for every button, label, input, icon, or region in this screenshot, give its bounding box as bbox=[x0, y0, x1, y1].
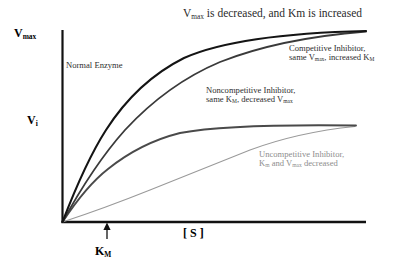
chart-title: Vmax is decreased, and Km is increased bbox=[183, 7, 362, 21]
enzyme-kinetics-figure: Vmax is decreased, and Km is increased V… bbox=[0, 0, 413, 272]
km-arrow-icon bbox=[103, 223, 110, 240]
curve-uncompetitive bbox=[63, 127, 356, 223]
label-competitive-inhibitor: Competitive Inhibitor, same Vmax, increa… bbox=[289, 44, 374, 63]
label-noncompetitive-inhibitor: Noncompetitive Inhibitor, same KM, decre… bbox=[206, 86, 295, 105]
y-axis-vi-label: Vi bbox=[27, 114, 38, 128]
label-normal-enzyme: Normal Enzyme bbox=[66, 61, 123, 70]
curve-noncompetitive bbox=[63, 125, 357, 222]
label-uncompetitive-inhibitor: Uncompetitive Inhibitor, Km and Vmax dec… bbox=[259, 150, 344, 169]
plot-area bbox=[0, 0, 413, 272]
x-axis-label: [ S ] bbox=[183, 227, 204, 240]
y-axis-vmax-label: Vmax bbox=[14, 27, 36, 41]
km-axis-label: KM bbox=[95, 245, 111, 259]
